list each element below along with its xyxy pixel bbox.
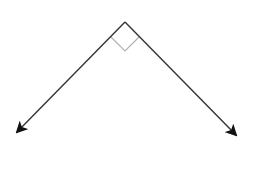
right-angle-diagram <box>0 0 253 171</box>
right-angle-marker <box>111 37 139 51</box>
right-ray-arrow <box>125 22 236 135</box>
left-ray-arrow <box>17 22 125 132</box>
